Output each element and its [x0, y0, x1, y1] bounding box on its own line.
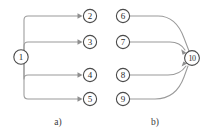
node-10[interactable]: 10	[185, 51, 200, 66]
node-2-label: 2	[88, 11, 93, 21]
node-2[interactable]: 2	[83, 9, 96, 22]
panel-a-edges	[24, 13, 83, 102]
edge-6-to-10	[130, 16, 189, 51]
node-6[interactable]: 6	[116, 9, 129, 22]
node-8[interactable]: 8	[116, 68, 129, 81]
node-5-label: 5	[88, 94, 93, 104]
arrowhead-edge-1-to-4	[78, 72, 83, 78]
node-7-label: 7	[121, 37, 126, 47]
edge-7-to-10	[130, 42, 185, 50]
arrowhead-edge-1-to-2	[78, 13, 83, 19]
edge-1-to-5	[24, 64, 80, 99]
graph-diagram: 1 2 3 4 5 6 7 8	[0, 0, 209, 133]
node-4[interactable]: 4	[83, 68, 96, 81]
node-1-label: 1	[19, 52, 24, 62]
node-6-label: 6	[121, 11, 126, 21]
edge-8-to-10	[130, 66, 186, 75]
node-7[interactable]: 7	[116, 35, 129, 48]
node-8-label: 8	[121, 70, 126, 80]
node-10-label: 10	[188, 54, 196, 63]
panel-b-edges	[130, 16, 189, 99]
arrowhead-edge-1-to-5	[78, 96, 83, 102]
edge-1-to-3	[24, 42, 80, 50]
panel-a-caption: a)	[54, 117, 61, 128]
edge-1-to-4	[24, 64, 80, 79]
node-1[interactable]: 1	[14, 50, 28, 64]
node-9[interactable]: 9	[116, 92, 129, 105]
panel-b-caption: b)	[151, 117, 159, 128]
node-5[interactable]: 5	[83, 92, 96, 105]
node-3[interactable]: 3	[83, 35, 96, 48]
node-3-label: 3	[88, 37, 93, 47]
edge-9-to-10	[130, 66, 188, 99]
edge-1-to-2	[24, 16, 80, 50]
node-9-label: 9	[121, 94, 126, 104]
node-4-label: 4	[88, 70, 93, 80]
arrowhead-edge-1-to-3	[78, 39, 83, 45]
figure-root: 1 2 3 4 5 6 7 8	[0, 0, 209, 133]
